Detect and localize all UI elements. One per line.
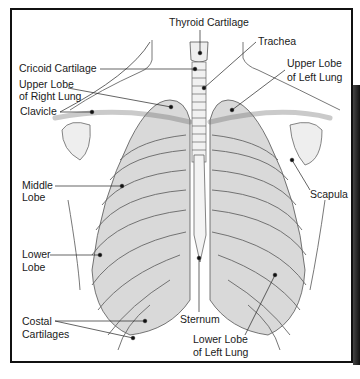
label-upper-lobe-left-line1: Upper Lobe [287,57,342,70]
label-cricoid-cartilage: Cricoid Cartilage [19,62,97,75]
label-lower-lobe-left-line2: of Left Lung [193,346,248,359]
label-lower-lobe-line2: Lobe [22,261,45,274]
label-scapula: Scapula [310,188,348,201]
label-upper-lobe-right-line2: of Right Lung [19,90,81,103]
label-upper-lobe-right-line1: Upper Lobe [19,78,74,91]
label-thyroid-cartilage: Thyroid Cartilage [169,16,249,29]
label-lower-lobe-left-line1: Lower Lobe [193,333,248,346]
trachea-shape [192,62,206,162]
label-trachea: Trachea [258,35,296,48]
torso-outline-right [310,200,325,290]
label-costal-cartilages-line1: Costal [22,315,52,328]
label-costal-cartilages-line2: Cartilages [22,328,69,341]
label-upper-lobe-left-line2: of Left Lung [287,71,342,84]
shoulder-left [290,122,322,165]
torso-outline-left [68,200,80,290]
label-sternum: Sternum [180,313,220,326]
label-middle-lobe-line1: Middle [22,179,53,192]
label-middle-lobe-line2: Lobe [22,191,45,204]
sternum-shape [194,155,206,262]
label-clavicle: Clavicle [20,105,57,118]
shoulder-right [62,122,90,160]
label-lower-lobe-line1: Lower [22,248,51,261]
